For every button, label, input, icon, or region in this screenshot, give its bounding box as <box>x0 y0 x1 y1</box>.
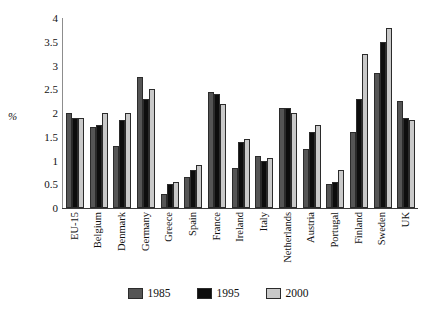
y-axis-title: % <box>8 110 17 122</box>
legend-label: 2000 <box>286 288 309 300</box>
y-axis-ticks: 43.532.521.510.50 <box>26 18 58 208</box>
bar <box>149 89 155 208</box>
x-label-cell: Greece <box>158 212 182 282</box>
legend-item[interactable]: 1995 <box>197 288 240 300</box>
bar-group <box>323 18 347 208</box>
bar <box>386 28 392 209</box>
bar-group <box>394 18 418 208</box>
x-axis-line <box>62 208 418 209</box>
bar <box>362 54 368 208</box>
x-label-cell: EU-15 <box>63 212 87 282</box>
x-tick-label: Spain <box>188 212 199 236</box>
bar <box>173 182 179 208</box>
bar <box>315 125 321 208</box>
x-tick-label: Netherlands <box>283 212 294 263</box>
x-tick-label: Greece <box>164 212 175 242</box>
y-tick-label: 3.5 <box>44 36 58 47</box>
bar <box>78 118 84 208</box>
x-label-cell: Ireland <box>229 212 253 282</box>
bar-chart: % 43.532.521.510.50 EU-15BelgiumDenmarkG… <box>0 0 436 321</box>
bar-group <box>229 18 253 208</box>
x-label-cell: Italy <box>252 212 276 282</box>
bar <box>125 113 131 208</box>
x-label-cell: Denmark <box>110 212 134 282</box>
bar-group <box>134 18 158 208</box>
x-tick-label: Sweden <box>377 212 388 245</box>
x-label-cell: Finland <box>347 212 371 282</box>
x-tick-label: France <box>212 212 223 241</box>
x-label-cell: Austria <box>300 212 324 282</box>
bar <box>409 120 415 208</box>
x-label-cell: Sweden <box>371 212 395 282</box>
x-label-cell: Belgium <box>87 212 111 282</box>
x-tick-label: Ireland <box>235 212 246 242</box>
y-tick-label: 1 <box>53 155 59 166</box>
legend-label: 1995 <box>217 288 240 300</box>
x-tick-label: UK <box>401 212 412 227</box>
x-tick-label: Austria <box>306 212 317 243</box>
bar <box>267 158 273 208</box>
x-tick-label: Portugal <box>330 212 341 248</box>
bar-group <box>181 18 205 208</box>
y-tick-label: 0.5 <box>44 179 58 190</box>
x-label-cell: UK <box>394 212 418 282</box>
legend-swatch <box>197 288 212 299</box>
x-tick-label: Belgium <box>93 212 104 248</box>
legend-item[interactable]: 1985 <box>128 288 171 300</box>
x-tick-label: Germany <box>141 212 152 251</box>
bar-group <box>276 18 300 208</box>
bar <box>291 113 297 208</box>
x-tick-label: Finland <box>354 212 365 244</box>
bar-group <box>87 18 111 208</box>
bar <box>102 113 108 208</box>
x-label-cell: France <box>205 212 229 282</box>
bar <box>244 139 250 208</box>
chart-legend: 198519952000 <box>0 288 436 300</box>
y-tick-label: 0 <box>53 203 59 214</box>
bar-group <box>110 18 134 208</box>
x-tick-label: EU-15 <box>70 212 81 240</box>
legend-swatch <box>266 288 281 299</box>
x-axis-labels: EU-15BelgiumDenmarkGermanyGreeceSpainFra… <box>63 212 418 282</box>
x-tick-label: Denmark <box>117 212 128 251</box>
x-label-cell: Germany <box>134 212 158 282</box>
x-label-cell: Spain <box>181 212 205 282</box>
y-tick-label: 2.5 <box>44 84 58 95</box>
bar-group <box>63 18 87 208</box>
y-tick-label: 4 <box>53 13 59 24</box>
bar-group <box>347 18 371 208</box>
y-tick-label: 3 <box>53 60 59 71</box>
bar-group <box>205 18 229 208</box>
bar <box>338 170 344 208</box>
x-label-cell: Portugal <box>323 212 347 282</box>
bar-group <box>252 18 276 208</box>
bar-group <box>158 18 182 208</box>
legend-item[interactable]: 2000 <box>266 288 309 300</box>
y-tick-label: 1.5 <box>44 131 58 142</box>
legend-swatch <box>128 288 143 299</box>
plot-area <box>63 18 418 208</box>
legend-label: 1985 <box>148 288 171 300</box>
bar <box>196 165 202 208</box>
x-tick-label: Italy <box>259 212 270 231</box>
bar <box>220 104 226 209</box>
bar-group <box>300 18 324 208</box>
y-tick-label: 2 <box>53 108 59 119</box>
x-label-cell: Netherlands <box>276 212 300 282</box>
bar-group <box>371 18 395 208</box>
